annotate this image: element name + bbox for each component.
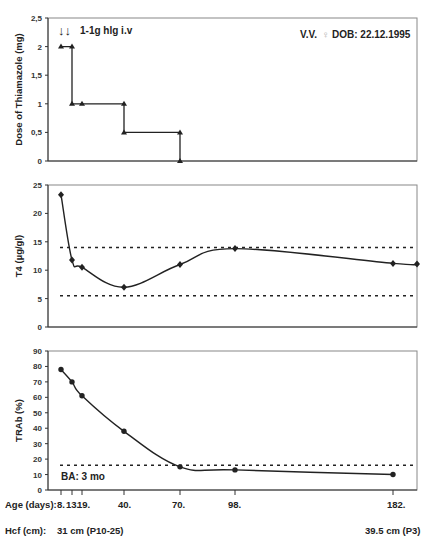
- series-line: [61, 370, 393, 475]
- diamond-marker: [79, 264, 85, 271]
- dob-label: DOB: 22.12.1995: [332, 29, 411, 40]
- female-icon: ♀: [322, 29, 330, 40]
- y-tick-label: 15: [33, 238, 42, 247]
- y-tick-label: 30: [33, 440, 42, 449]
- y-tick-label: 5: [38, 295, 43, 304]
- treatment-note: 1-1g hlg i.v: [80, 25, 133, 36]
- age-tick-label: 182.: [387, 499, 406, 510]
- circle-marker: [79, 393, 84, 398]
- series-line: [61, 195, 417, 288]
- circle-marker: [58, 367, 63, 372]
- y-tick-label: 0: [38, 323, 43, 332]
- y-tick-label: 1: [38, 100, 43, 109]
- y-tick-label: 70: [33, 378, 42, 387]
- y-tick-label: 20: [33, 209, 42, 218]
- dose-step-line: [61, 47, 180, 161]
- circle-marker: [390, 472, 395, 477]
- y-tick-label: 80: [33, 362, 42, 371]
- y-tick-label: 0: [38, 486, 43, 495]
- y-axis-title: Dose of Thiamazole (mg): [13, 33, 24, 145]
- y-axis-title: T4 (µg/gl): [13, 235, 24, 277]
- diamond-marker: [232, 245, 238, 252]
- age-tick-label: 98.: [228, 499, 241, 510]
- age-tick-label: 8.: [57, 499, 65, 510]
- hcf-start: 31 cm (P10-25): [57, 525, 124, 536]
- hcf-end: 39.5 cm (P3): [365, 525, 420, 536]
- age-tick-labels: 8.13.19.40.70.98.182.: [57, 499, 406, 510]
- diamond-marker: [121, 284, 127, 291]
- y-tick-label: 0,5: [31, 128, 43, 137]
- patient-initials: V.V.: [300, 29, 317, 40]
- bone-age-label: BA: 3 mo: [61, 471, 105, 482]
- y-axis-title: TRAb (%): [13, 399, 24, 442]
- thyroid-charts: 00,511,522,5Dose of Thiamazole (mg) 0510…: [0, 0, 430, 546]
- y-tick-label: 50: [33, 409, 42, 418]
- y-tick-label: 90: [33, 347, 42, 356]
- y-tick-label: 0: [38, 157, 43, 166]
- y-tick-label: 1,5: [31, 71, 43, 80]
- diamond-marker: [390, 260, 396, 267]
- age-tick-label: 40.: [118, 499, 131, 510]
- treatment-arrows: ↓↓: [58, 23, 71, 38]
- circle-marker: [232, 467, 237, 472]
- y-tick-label: 20: [33, 455, 42, 464]
- y-tick-label: 40: [33, 424, 42, 433]
- age-tick-label: 19.: [77, 499, 90, 510]
- plot-frame: [48, 185, 417, 327]
- y-tick-label: 10: [33, 266, 42, 275]
- diamond-marker: [58, 191, 64, 198]
- circle-marker: [121, 429, 126, 434]
- y-tick-label: 2,5: [31, 14, 43, 23]
- diamond-marker: [177, 261, 183, 268]
- age-tick-label: 70.: [172, 499, 185, 510]
- circle-marker: [177, 464, 182, 469]
- y-tick-label: 2: [38, 43, 43, 52]
- diamond-marker: [414, 260, 420, 267]
- hcf-label: Hcf (cm):: [5, 525, 46, 536]
- age-axis-label: Age (days):: [5, 499, 57, 510]
- y-tick-label: 10: [33, 471, 42, 480]
- circle-marker: [69, 379, 74, 384]
- diamond-marker: [69, 256, 75, 263]
- t4-chart: 0510152025T4 (µg/gl): [13, 181, 420, 332]
- y-tick-label: 60: [33, 393, 42, 402]
- y-tick-label: 25: [33, 181, 42, 190]
